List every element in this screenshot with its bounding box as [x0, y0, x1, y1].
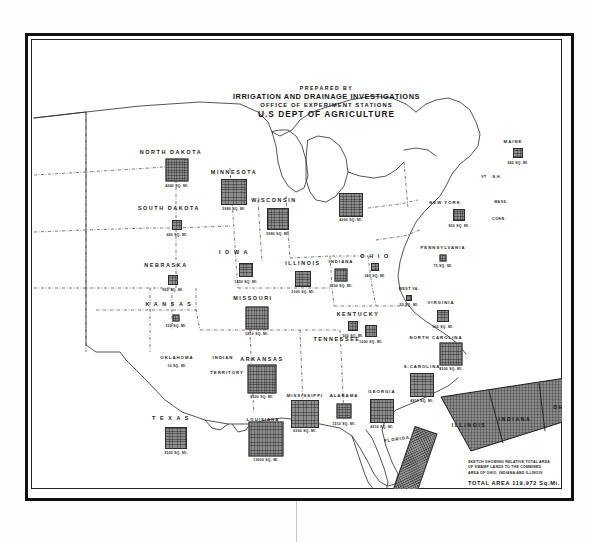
inset-label-ohio: OHIO — [553, 404, 562, 410]
swamp-swatch-tennessee — [365, 325, 377, 337]
state-label-ohio: O H I O — [360, 253, 389, 259]
swamp-swatch-arkansas — [248, 365, 277, 394]
state-label-south-dakota: SOUTH DAKOTA — [138, 205, 200, 211]
state-label-arkansas: ARKANSAS — [240, 356, 283, 362]
state-value-nebraska: 600 SQ. MI. — [162, 288, 183, 292]
state-value-new-york: 820 SQ. MI. — [448, 224, 469, 228]
state-label-territory: TERRITORY — [210, 370, 244, 375]
state-value-north-dakota: 4640 SQ. MI. — [165, 184, 188, 188]
title-department: U.S DEPT OF AGRICULTURE — [209, 109, 444, 120]
inset-comparison-block: ILLINOIS INDIANA OHIO — [435, 369, 562, 465]
swamp-swatch-louisiana — [249, 422, 284, 457]
state-value-south-dakota: 640 SQ. MI. — [166, 233, 187, 237]
legend-line-3: AREA OF OHIO, INDIANA AND ILLINOIS — [468, 471, 562, 476]
swamp-swatch-georgia — [370, 399, 394, 423]
title-prepared-by: PREPARED BY — [209, 85, 444, 92]
inset-label-indiana: INDIANA — [499, 416, 532, 422]
swamp-swatch-missouri — [246, 307, 269, 330]
state-label-illinois: ILLINOIS — [285, 260, 321, 266]
swamp-swatch-pennsylvania — [440, 255, 447, 262]
title-agency-line: IRRIGATION AND DRAINAGE INVESTIGATIONS — [209, 92, 444, 102]
state-label-massachusetts: MASS. — [494, 200, 508, 204]
swamp-swatch-north-dakota — [166, 159, 189, 182]
swamp-swatch-indiana — [335, 269, 348, 282]
swamp-swatch-south-carolina — [410, 373, 434, 397]
state-label-connecticut: CONN. — [492, 217, 506, 221]
state-label-kentucky: KENTUCKY — [337, 311, 380, 317]
state-label-indian: INDIAN — [213, 355, 234, 360]
swamp-swatch-mississippi — [291, 400, 319, 428]
swamp-swatch-south-dakota — [172, 220, 182, 230]
state-value-mississippi: 8300 SQ. MI. — [293, 429, 316, 433]
state-value-west-virginia: 50 SQ. MI. — [400, 303, 419, 307]
state-label-minnesota: MINNESOTA — [211, 169, 257, 175]
state-label-maine: MAINE — [504, 139, 523, 144]
state-value-south-carolina: 4810 SQ. MI. — [410, 399, 433, 403]
state-label-texas: T E X A S — [152, 415, 190, 421]
map-legend: SKETCH SHOWING RELATIVE TOTAL AREA OF SW… — [468, 460, 562, 486]
state-value-maine: 540 SQ. MI. — [507, 161, 528, 165]
state-value-alabama: 1510 SQ. MI. — [332, 422, 355, 426]
state-label-virginia: VIRGINIA — [427, 300, 454, 305]
state-value-pennsylvania: 75 SQ. MI. — [434, 264, 453, 268]
map-title-block: PREPARED BY IRRIGATION AND DRAINAGE INVE… — [209, 85, 444, 120]
state-value-minnesota: 5980 SQ. MI. — [222, 207, 245, 211]
swamp-swatch-wisconsin — [267, 208, 289, 230]
swamp-swatch-north-carolina — [440, 343, 463, 366]
swamp-swatch-virginia — [437, 310, 449, 322]
map-page: PREPARED BY IRRIGATION AND DRAINAGE INVE… — [0, 0, 592, 542]
state-label-oklahoma: OKLAHOMA — [160, 355, 193, 360]
state-label-nebraska: NEBRASKA — [144, 262, 187, 268]
title-office-line: OFFICE OF EXPERIMENT STATIONS — [209, 102, 444, 110]
swamp-swatch-iowa — [239, 263, 253, 277]
state-value-arkansas: 8500 SQ. MI. — [250, 395, 273, 399]
swamp-swatch-illinois — [295, 271, 311, 287]
state-value-ohio: 340 SQ. MI. — [364, 274, 385, 278]
legend-total-area: TOTAL AREA 119,972 Sq.Mi. — [468, 480, 562, 486]
swamp-swatch-west-virginia — [406, 295, 412, 301]
inset-label-illinois: ILLINOIS — [452, 422, 487, 428]
swamp-swatch-kansas — [173, 315, 180, 322]
state-label-wisconsin: WISCONSIN — [251, 197, 297, 203]
state-value-iowa: 1450 SQ. MI. — [234, 280, 257, 284]
state-value-oklahoma: 10 SQ. MI. — [168, 364, 187, 368]
swamp-swatch-minnesota — [221, 179, 247, 205]
swamp-swatch-maine — [513, 148, 523, 158]
swamp-swatch-kentucky — [348, 321, 358, 331]
state-label-indiana: INDIANA — [329, 259, 354, 264]
map-canvas: PREPARED BY IRRIGATION AND DRAINAGE INVE… — [31, 39, 562, 489]
swamp-swatch-texas — [165, 427, 187, 449]
state-label-south-carolina: S.CAROLINA — [404, 364, 441, 369]
swamp-swatch-alabama — [337, 404, 352, 419]
state-value-kansas: 100 SQ. MI. — [165, 324, 186, 328]
swamp-swatch-ohio — [371, 263, 379, 271]
state-value-missouri: 5810 SQ. MI. — [245, 332, 268, 336]
swamp-swatch-michigan — [339, 193, 363, 217]
state-label-new-york: NEW YORK — [429, 200, 461, 205]
state-value-tennessee: 1000 SQ. MI. — [359, 340, 382, 344]
state-label-georgia: GEORGIA — [368, 389, 395, 394]
swamp-swatch-new-york — [453, 209, 465, 221]
state-label-iowa: I O W A — [219, 249, 249, 255]
state-value-indiana: 1250 SQ. MI. — [329, 284, 352, 288]
state-value-illinois: 2300 SQ. MI. — [291, 290, 314, 294]
state-value-louisiana: 13000 SQ. MI. — [253, 458, 278, 462]
state-value-texas: 3500 SQ. MI. — [164, 451, 187, 455]
state-value-virginia: 900 SQ. MI. — [432, 325, 453, 329]
swamp-swatch-nebraska — [168, 275, 178, 285]
state-label-north-carolina: NORTH CAROLINA — [409, 335, 462, 340]
state-label-missouri: MISSOURI — [233, 295, 272, 301]
state-label-new-hampshire: N.H. — [493, 175, 502, 179]
state-label-pennsylvania: PENNSYLVANIA — [420, 245, 465, 250]
state-value-michigan: 4000 SQ. MI. — [339, 218, 362, 222]
state-value-georgia: 4510 SQ. MI. — [370, 425, 393, 429]
state-label-alabama: ALABAMA — [330, 393, 359, 398]
state-label-kansas: K A N S A S — [145, 301, 192, 307]
state-label-vermont: VT — [481, 175, 486, 179]
state-label-mississippi: MISSISSIPPI — [287, 393, 324, 398]
state-label-west-virginia: WEST VA. — [399, 287, 420, 291]
state-value-wisconsin: 5980 SQ. MI. — [266, 232, 289, 236]
state-label-tennessee: TENNESSEE — [313, 336, 360, 342]
state-label-north-dakota: NORTH DAKOTA — [140, 149, 203, 155]
